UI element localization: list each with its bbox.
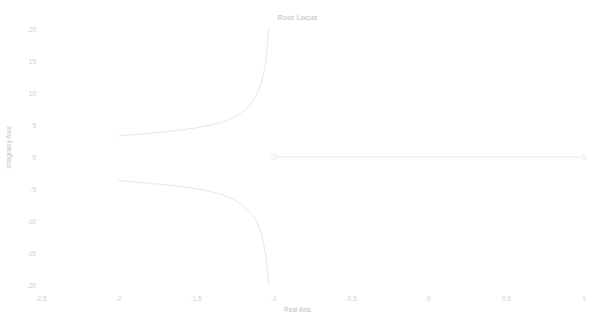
locus-series-group <box>119 29 584 285</box>
root-locus-figure: Root Locus Imaginary Axis Real Axis 2015… <box>0 0 595 326</box>
locus-branch-lower-branch <box>119 181 269 285</box>
root-locus-plot-area <box>0 0 595 326</box>
locus-branch-upper-branch <box>119 29 269 136</box>
